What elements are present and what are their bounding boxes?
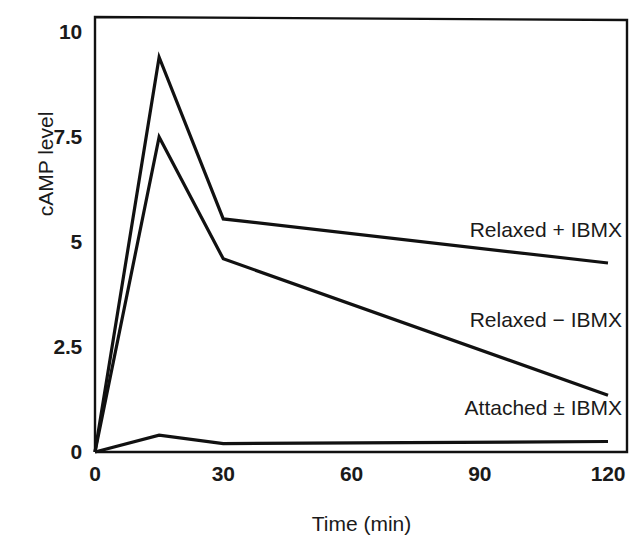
series-line-attached-pm-ibmx <box>95 435 608 452</box>
series-line-relaxed-plus-ibmx <box>95 57 608 452</box>
x-tick-label-0: 0 <box>89 462 100 486</box>
series-annotation-relaxed-plus-ibmx: Relaxed + IBMX <box>0 218 622 242</box>
y-tick-label-0: 0 <box>30 440 82 464</box>
series-annotation-attached-pm-ibmx: Attached ± IBMX <box>0 396 622 420</box>
x-tick-label-120: 120 <box>591 462 625 486</box>
x-tick-label-60: 60 <box>340 462 363 486</box>
y-tick-label-2-5: 2.5 <box>30 335 82 359</box>
camp-level-line-chart: 0 2.5 5 7.5 10 0 30 60 90 120 cAMP level… <box>0 0 642 549</box>
x-tick-label-90: 90 <box>468 462 491 486</box>
y-tick-label-10: 10 <box>30 20 82 44</box>
series-lines <box>95 57 608 452</box>
series-annotation-relaxed-minus-ibmx: Relaxed − IBMX <box>0 308 622 332</box>
x-axis-title: Time (min) <box>95 512 628 536</box>
x-tick-label-30: 30 <box>212 462 235 486</box>
